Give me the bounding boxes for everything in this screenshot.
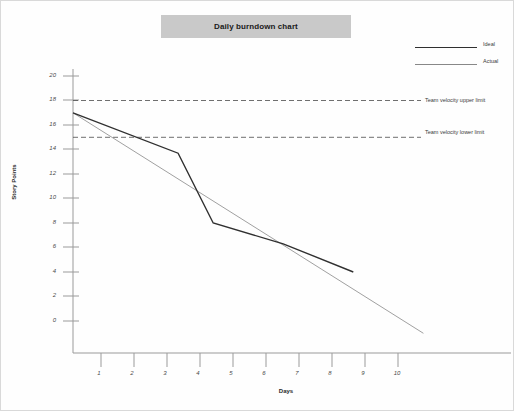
x-tick-label: 10	[390, 370, 404, 376]
y-tick-label: 10	[34, 194, 56, 200]
reference-label-lower: Team velocity lower limit	[425, 129, 484, 135]
y-tick-label: 2	[34, 292, 56, 298]
x-tick-label: 4	[191, 370, 205, 376]
y-tick-label: 16	[34, 121, 56, 127]
x-tick-label: 3	[158, 370, 172, 376]
x-tick-label: 5	[224, 370, 238, 376]
x-tick-label: 9	[356, 370, 370, 376]
x-tick-label: 8	[323, 370, 337, 376]
x-tick-label: 1	[92, 370, 106, 376]
y-tick-label: 20	[34, 72, 56, 78]
y-tick-label: 0	[34, 317, 56, 323]
y-tick-marks	[63, 76, 79, 321]
y-tick-label: 4	[34, 268, 56, 274]
y-tick-label: 14	[34, 145, 56, 151]
series-line-ideal	[73, 113, 353, 272]
y-tick-label: 8	[34, 219, 56, 225]
burndown-chart-page: Daily burndown chart Ideal Actual	[0, 0, 514, 411]
series-line-actual	[73, 113, 423, 333]
x-axis-title: Days	[246, 388, 326, 394]
y-tick-label: 6	[34, 243, 56, 249]
y-axis-title: Story Points	[11, 147, 17, 217]
y-tick-label: 12	[34, 170, 56, 176]
y-tick-label: 18	[34, 96, 56, 102]
x-tick-label: 6	[257, 370, 271, 376]
x-tick-marks	[101, 353, 398, 367]
chart-plot-area	[1, 1, 514, 411]
reference-label-upper: Team velocity upper limit	[425, 97, 485, 103]
x-tick-label: 2	[125, 370, 139, 376]
x-tick-label: 7	[290, 370, 304, 376]
